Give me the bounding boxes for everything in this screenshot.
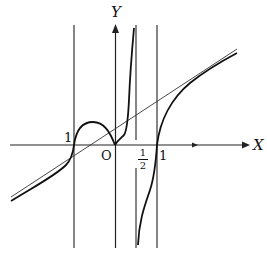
half-denominator: 2 bbox=[140, 160, 146, 171]
tick-label-neg-one: 1 bbox=[64, 131, 72, 144]
origin-label: O bbox=[101, 149, 112, 162]
x-axis-label: X bbox=[253, 138, 264, 153]
y-axis-arrow-icon bbox=[112, 24, 119, 33]
oblique-asymptote bbox=[11, 49, 237, 197]
curve-branch-hump bbox=[74, 122, 115, 145]
y-axis-label: Y bbox=[111, 5, 121, 20]
curve-branch-left bbox=[11, 145, 74, 201]
graph-svg bbox=[0, 0, 267, 267]
x-axis-direction-mark-icon bbox=[192, 143, 198, 148]
tick-label-half: 1 2 bbox=[138, 148, 148, 171]
tick-label-one: 1 bbox=[159, 149, 167, 162]
function-graph-diagram: Y X O 1 1 1 2 bbox=[0, 0, 267, 267]
half-numerator: 1 bbox=[140, 147, 146, 158]
x-axis-arrow-icon bbox=[242, 142, 250, 149]
